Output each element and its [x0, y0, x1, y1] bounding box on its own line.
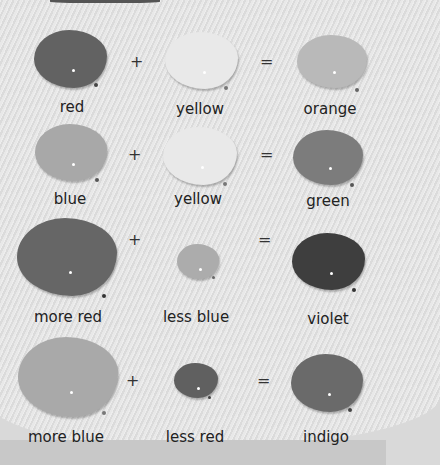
label-violet: violet: [307, 310, 349, 328]
label-yellow: yellow: [176, 100, 224, 118]
plus-sign: +: [126, 371, 139, 390]
paint-blob-yellow: [163, 127, 237, 185]
paint-blob-less-blue: [177, 244, 219, 279]
plus-sign: +: [128, 230, 141, 249]
plus-sign: +: [128, 145, 141, 164]
paint-drop: [102, 294, 106, 298]
paint-blob-more-blue: [18, 337, 118, 417]
equals-sign: =: [258, 230, 271, 249]
paint-blob-less-red: [174, 363, 218, 398]
label-less-blue: less blue: [163, 308, 229, 326]
paint-blob-indigo: [291, 354, 363, 412]
palette-edge: [50, 0, 160, 3]
paint-drop: [208, 396, 211, 399]
equals-sign: =: [260, 52, 273, 71]
paint-drop: [95, 178, 99, 182]
paint-drop: [102, 411, 106, 415]
label-red: red: [60, 98, 85, 116]
label-less-red: less red: [166, 428, 224, 446]
equals-sign: =: [257, 371, 270, 390]
equals-sign: =: [260, 145, 273, 164]
paint-blob-red: [34, 30, 107, 88]
paint-blob-yellow: [165, 32, 238, 89]
paint-blob-orange: [297, 35, 367, 88]
paint-blob-blue: [35, 124, 107, 181]
paint-blob-violet: [292, 233, 365, 290]
label-more-red: more red: [34, 308, 102, 326]
paint-blob-green: [293, 130, 363, 185]
paint-drop: [224, 86, 228, 90]
label-orange: orange: [304, 100, 357, 118]
paint-drop: [350, 183, 354, 187]
label-more-blue: more blue: [28, 428, 104, 446]
label-blue: blue: [54, 190, 86, 208]
paint-blob-more-red: [17, 218, 117, 296]
paint-drop: [94, 83, 98, 87]
paint-drop: [352, 288, 356, 292]
paint-drop: [348, 408, 352, 412]
plus-sign: +: [130, 52, 143, 71]
label-yellow: yellow: [174, 190, 222, 208]
label-indigo: indigo: [303, 428, 349, 446]
paint-drop: [212, 276, 215, 279]
paint-drop: [223, 182, 227, 186]
label-green: green: [306, 192, 349, 210]
paint-drop: [355, 88, 359, 92]
